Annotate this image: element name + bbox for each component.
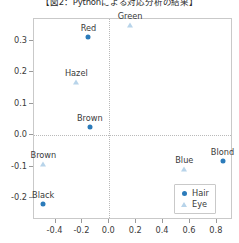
data-point-hair-red xyxy=(86,35,91,40)
y-tick-mark xyxy=(29,134,33,135)
y-tick-mark xyxy=(29,40,33,41)
data-point-eye-green xyxy=(127,22,133,27)
point-label-eye-blue: Blue xyxy=(175,155,193,165)
y-tick-label: -0.1 xyxy=(11,161,27,171)
point-label-eye-green: Green xyxy=(118,11,143,21)
legend-item-eye[interactable]: Eye xyxy=(179,199,209,210)
x-tick-label: 0.8 xyxy=(209,225,222,235)
circle-icon xyxy=(179,191,189,196)
point-label-hair-blond: Blond xyxy=(211,147,234,157)
x-tick-mark xyxy=(135,219,136,223)
x-tick-mark xyxy=(216,219,217,223)
figure-caption: 【図2：Pythonによる対応分析の結果】 xyxy=(0,0,239,7)
x-tick-label: 0.0 xyxy=(102,225,115,235)
legend-label: Eye xyxy=(192,199,207,210)
y-tick-label: 0.1 xyxy=(14,98,27,108)
y-tick-mark xyxy=(29,71,33,72)
data-point-eye-brown xyxy=(40,162,46,167)
x-tick-mark xyxy=(55,219,56,223)
point-label-eye-brown: Brown xyxy=(31,150,57,160)
data-point-hair-black xyxy=(41,201,46,206)
data-point-eye-hazel xyxy=(73,80,79,85)
x-tick-mark xyxy=(162,219,163,223)
y-tick-mark xyxy=(29,166,33,167)
scatter-plot-area: RedBrownBlackBlondGreenHazelBrownBlue Ha… xyxy=(33,18,232,219)
y-tick-label: 0.2 xyxy=(14,66,27,76)
x-tick-mark xyxy=(108,219,109,223)
y-tick-label: 0.0 xyxy=(14,129,27,139)
point-label-hair-red: Red xyxy=(81,23,97,33)
y-tick-mark xyxy=(29,103,33,104)
chart-legend[interactable]: HairEye xyxy=(174,184,216,214)
x-tick-label: 0.2 xyxy=(129,225,142,235)
point-label-eye-hazel: Hazel xyxy=(65,68,88,78)
gridline-vertical-zero xyxy=(109,19,110,218)
data-point-hair-brown xyxy=(87,124,92,129)
y-tick-label: 0.3 xyxy=(14,35,27,45)
x-tick-mark xyxy=(189,219,190,223)
legend-item-hair[interactable]: Hair xyxy=(179,188,209,199)
x-tick-label: 0.4 xyxy=(156,225,169,235)
data-point-eye-blue xyxy=(181,167,187,172)
gridline-horizontal-zero xyxy=(34,135,231,136)
x-tick-label: 0.6 xyxy=(182,225,195,235)
triangle-icon xyxy=(179,202,189,207)
legend-label: Hair xyxy=(192,188,209,199)
x-tick-label: -0.4 xyxy=(47,225,63,235)
point-label-hair-black: Black xyxy=(32,190,54,200)
x-axis-ticks: -0.4-0.20.00.20.40.60.8 xyxy=(33,219,232,241)
y-tick-mark xyxy=(29,197,33,198)
data-point-hair-blond xyxy=(220,158,225,163)
y-tick-label: -0.2 xyxy=(11,192,27,202)
x-tick-mark xyxy=(81,219,82,223)
point-label-hair-brown: Brown xyxy=(77,113,103,123)
x-tick-label: -0.2 xyxy=(73,225,89,235)
